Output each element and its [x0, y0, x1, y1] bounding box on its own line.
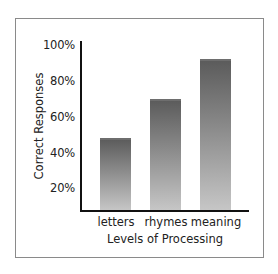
y-tick-100: 100%: [43, 39, 75, 51]
bar-meaning: [200, 59, 231, 210]
y-tick-20: 20%: [50, 182, 75, 194]
y-tick-60: 60%: [50, 111, 75, 123]
bar-letters: [100, 138, 131, 210]
x-axis-line: [80, 210, 249, 212]
y-tick-80: 80%: [50, 75, 75, 87]
x-axis-title: Levels of Processing: [107, 232, 223, 246]
bar-rhymes: [150, 99, 181, 210]
x-tick-meaning: meaning: [186, 215, 246, 229]
y-tick-40: 40%: [50, 147, 75, 159]
y-axis-line: [80, 41, 82, 212]
y-axis-title: Correct Responses: [32, 73, 46, 180]
